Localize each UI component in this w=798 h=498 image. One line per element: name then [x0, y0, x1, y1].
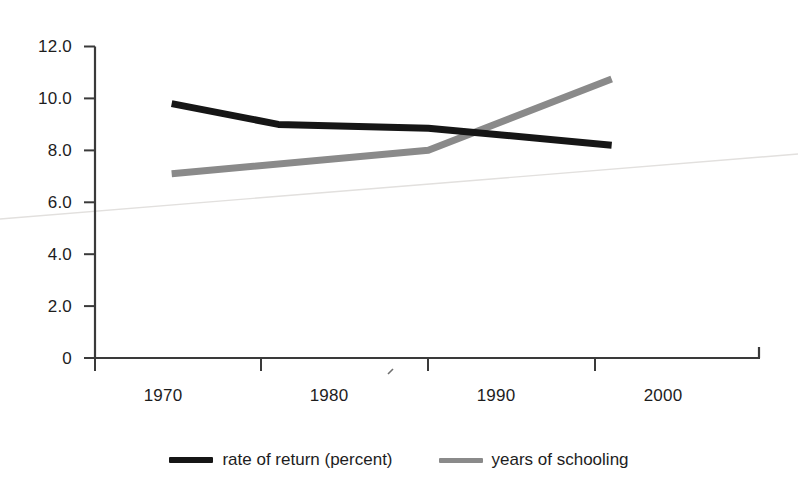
- legend-item-rate-of-return[interactable]: rate of return (percent): [169, 450, 392, 470]
- y-axis-label-0: 0: [10, 349, 72, 369]
- y-axis-ticks: [84, 47, 95, 359]
- legend-swatch-gray-line-icon: [439, 458, 483, 463]
- legend-label-years-of-schooling: years of schooling: [492, 450, 629, 470]
- y-axis-label-2: 2.0: [10, 297, 72, 317]
- x-axis-label-2000: 2000: [628, 386, 698, 406]
- y-axis-label-12: 12.0: [10, 37, 72, 57]
- y-axis-label-4: 4.0: [10, 245, 72, 265]
- line-chart-plot: [0, 0, 798, 498]
- legend-item-years-of-schooling[interactable]: years of schooling: [439, 450, 629, 470]
- y-axis-label-8: 8.0: [10, 141, 72, 161]
- x-axis-ticks: [95, 358, 595, 371]
- series-line-rate-of-return: [172, 104, 612, 146]
- x-axis-label-1990: 1990: [461, 386, 531, 406]
- y-axis-label-6: 6.0: [10, 193, 72, 213]
- scan-speck: [388, 369, 393, 374]
- legend-swatch-black-line-icon: [169, 457, 213, 463]
- x-axis-label-1980: 1980: [294, 386, 364, 406]
- x-axis-label-1970: 1970: [128, 386, 198, 406]
- y-axis-label-10: 10.0: [10, 89, 72, 109]
- scan-artifact-line: [0, 154, 798, 219]
- legend-label-rate-of-return: rate of return (percent): [222, 450, 392, 470]
- chart-figure: 12.0 10.0 8.0 6.0 4.0 2.0 0 1970 1980 19…: [0, 0, 798, 498]
- chart-legend: rate of return (percent) years of school…: [0, 442, 798, 478]
